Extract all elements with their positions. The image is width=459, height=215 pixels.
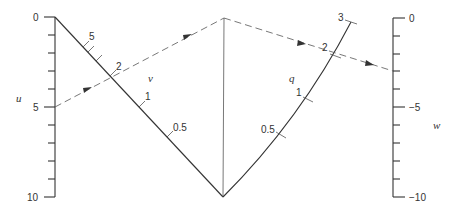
central-axis	[223, 18, 224, 197]
v-label-2: 2	[116, 61, 122, 72]
arrow-icon	[183, 34, 192, 40]
w-scale: 0 −5 −10 w	[393, 13, 441, 203]
arrow-icon	[297, 40, 306, 46]
v-label-5: 5	[89, 31, 95, 42]
q-label-1: 1	[296, 87, 302, 98]
u-label-0: 0	[33, 12, 39, 23]
u-scale: 0 5 10 u	[16, 12, 55, 203]
v-variable-label: v	[148, 72, 153, 84]
arrow-icon	[365, 60, 374, 66]
v-label-1: 1	[145, 91, 151, 102]
q-label-0.5: 0.5	[261, 124, 275, 135]
u-label-10: 10	[27, 192, 39, 203]
u-variable-label: u	[16, 92, 22, 104]
u-label-5: 5	[33, 102, 39, 113]
q-label-2: 2	[322, 42, 328, 53]
q-scale: 3 2 1 0.5 q	[223, 12, 357, 197]
nomogram-diagram: 0 5 10 u 5 2 1 0.5 v 3 2 1 0.5 q	[0, 0, 459, 215]
v-scale: 5 2 1 0.5 v	[55, 17, 223, 197]
arrow-icon	[83, 87, 92, 93]
w-label-minus5: −5	[409, 102, 421, 113]
q-label-3: 3	[338, 12, 344, 23]
w-label-minus10: −10	[409, 192, 426, 203]
v-label-0.5: 0.5	[173, 122, 187, 133]
w-variable-label: w	[433, 119, 441, 131]
q-variable-label: q	[289, 72, 295, 84]
w-label-0: 0	[409, 13, 415, 24]
